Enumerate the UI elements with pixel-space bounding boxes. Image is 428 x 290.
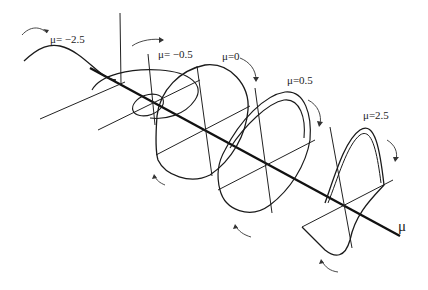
panel-label-mu-neg0_5: μ= −0.5 xyxy=(158,48,193,60)
arrow-mu-neg2_5 xyxy=(22,28,47,35)
panel-axes-mu-0 xyxy=(156,66,250,176)
panel-label-mu-neg2_5: μ= −2.5 xyxy=(50,33,85,45)
panel-label-mu-0: μ=0 xyxy=(222,50,240,62)
curve-mu-neg0_5-outer xyxy=(92,70,198,119)
arrowhead-icon xyxy=(253,77,259,82)
curve-mu-2_5 xyxy=(302,128,384,255)
curve-mu-neg2_5 xyxy=(24,45,116,80)
panel-label-mu-2_5: μ=2.5 xyxy=(363,109,389,121)
arrow-mu-0 xyxy=(240,58,256,80)
arrow-mu-2_5-bottom xyxy=(322,261,338,272)
arrowhead-icon xyxy=(159,37,164,43)
curve-mu-0 xyxy=(156,65,248,179)
arrow-mu-0_5-bottom xyxy=(236,226,251,237)
curve-mu-2_5-inner xyxy=(328,133,381,203)
mu-axis-label: μ xyxy=(398,218,406,235)
panel-label-mu-0_5: μ=0.5 xyxy=(287,74,313,86)
arrowhead-icon xyxy=(317,121,323,127)
mu-axis xyxy=(90,68,400,236)
arrow-mu-neg0_5 xyxy=(132,39,163,46)
panel-axes-mu-neg2_5 xyxy=(40,13,125,119)
arrowhead-icon xyxy=(393,157,399,162)
panel-axes-mu-0_5 xyxy=(218,88,315,213)
